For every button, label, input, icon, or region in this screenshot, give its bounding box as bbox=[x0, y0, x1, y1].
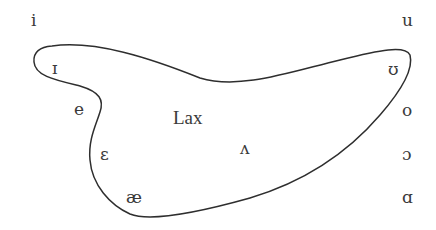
vowel-i: i bbox=[31, 10, 37, 30]
vowel-e: e bbox=[74, 99, 84, 119]
vowel-wedge: ʌ bbox=[239, 138, 250, 158]
vowel-o: o bbox=[402, 100, 412, 120]
vowel-open-e: ɛ bbox=[100, 144, 109, 164]
lax-region-outline bbox=[34, 45, 411, 217]
vowel-script-a: ɑ bbox=[402, 187, 413, 207]
region-label-lax: Lax bbox=[173, 107, 203, 128]
vowel-lax-diagram: i u ɪ ʊ e Lax o ɛ ʌ ɔ æ ɑ bbox=[0, 0, 436, 230]
vowel-open-o: ɔ bbox=[402, 144, 412, 164]
vowel-upsilon: ʊ bbox=[388, 59, 399, 79]
vowel-u: u bbox=[402, 10, 413, 30]
vowel-small-cap-i: ɪ bbox=[52, 58, 58, 78]
vowel-ash: æ bbox=[126, 187, 142, 207]
